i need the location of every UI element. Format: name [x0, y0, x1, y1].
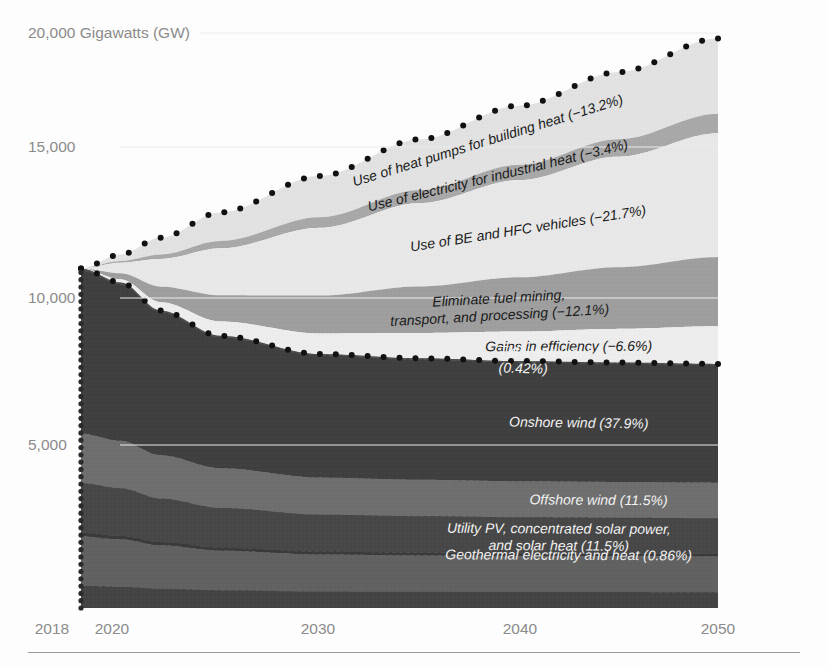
y-axis-tick-15000: 15,000	[28, 138, 76, 155]
chart-figure: 20,000 Gigawatts (GW)15,00010,0005,00020…	[0, 0, 828, 666]
x-axis-tick-2040: 2040	[503, 620, 538, 637]
y-axis-tick-10000: 10,000	[28, 289, 76, 306]
svg-text:Utility PV, concentrated solar: Utility PV, concentrated solar power,	[447, 520, 671, 537]
svg-text:Onshore wind (37.9%): Onshore wind (37.9%)	[509, 414, 649, 432]
footer-divider	[28, 652, 800, 653]
band-label-wws-1: Onshore wind (37.9%)	[509, 414, 649, 432]
x-axis-tick-2050: 2050	[701, 620, 736, 637]
svg-text:Geothermal electricity and hea: Geothermal electricity and heat (0.86%)	[445, 546, 692, 563]
energy-transition-area-chart: 20,000 Gigawatts (GW)15,00010,0005,00020…	[0, 0, 828, 666]
svg-text:Offshore wind (11.5%): Offshore wind (11.5%)	[529, 491, 667, 508]
y-axis-tick-5000: 5,000	[28, 436, 67, 453]
svg-text:Tidal and wave: Tidal and wave	[499, 343, 594, 361]
band-label-wws-2: Offshore wind (11.5%)	[529, 491, 667, 508]
svg-text:(0.42%): (0.42%)	[499, 359, 548, 376]
x-axis-tick-2018: 2018	[35, 620, 69, 637]
band-label-wws-4: Geothermal electricity and heat (0.86%)	[445, 546, 692, 563]
y-axis-tick-20000: 20,000 Gigawatts (GW)	[28, 24, 190, 41]
x-axis-tick-2030: 2030	[301, 620, 336, 637]
x-axis-tick-2020: 2020	[95, 620, 130, 637]
